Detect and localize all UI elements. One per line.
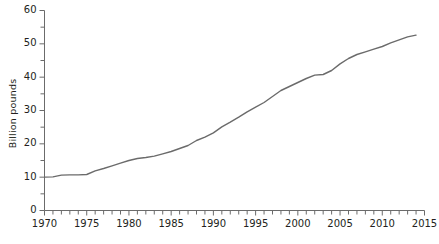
x-tick-label: 1970	[31, 218, 59, 229]
x-tick-label: 1990	[199, 218, 227, 229]
axes-group	[45, 11, 425, 211]
x-tick-label: 2000	[284, 218, 312, 229]
tick-marks-group	[40, 11, 425, 216]
x-tick-label: 2015	[411, 218, 439, 229]
data-series-line	[45, 35, 417, 177]
y-tick-label: 0	[11, 204, 37, 215]
y-tick-label: 30	[11, 104, 37, 115]
x-tick-label: 2005	[326, 218, 354, 229]
line-chart-plot	[0, 0, 439, 244]
y-tick-label: 10	[11, 171, 37, 182]
x-tick-label: 2010	[368, 218, 396, 229]
x-tick-label: 1975	[73, 218, 101, 229]
y-tick-label: 40	[11, 71, 37, 82]
y-tick-label: 20	[11, 137, 37, 148]
x-tick-label: 1980	[115, 218, 143, 229]
x-tick-label: 1995	[242, 218, 270, 229]
y-tick-label: 50	[11, 37, 37, 48]
y-tick-label: 60	[11, 4, 37, 15]
chart-container: Billion pounds 1970197519801985199019952…	[0, 0, 439, 244]
x-tick-label: 1985	[157, 218, 185, 229]
